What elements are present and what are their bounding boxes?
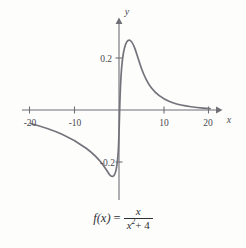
function-caption: f(x)= x x2+ 4 xyxy=(0,206,246,231)
function-curve xyxy=(31,40,211,176)
y-axis-arrowhead xyxy=(116,18,123,25)
x-axis-arrowhead xyxy=(216,107,223,114)
caption-denominator: x2+ 4 xyxy=(124,220,153,232)
caption-equals: = xyxy=(114,211,121,225)
caption-numerator: x xyxy=(124,206,153,218)
caption-denominator-rest: + 4 xyxy=(135,219,149,231)
caption-function-name: f(x) xyxy=(93,211,110,225)
caption-fraction: x x2+ 4 xyxy=(124,206,153,231)
function-graph-figure: -20 -10 10 20 0.2 -0.2 x y f(x)= x x2+ 4 xyxy=(0,0,246,248)
